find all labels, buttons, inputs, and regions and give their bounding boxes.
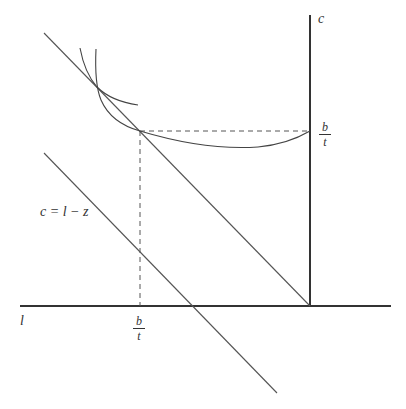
c-tick-numerator: b (318, 121, 332, 133)
l-axis-tick-label: b t (132, 315, 146, 342)
l-tick-denominator: t (132, 330, 146, 342)
indifference-curve-lower (96, 49, 310, 148)
upper-budget-line (44, 33, 310, 306)
budget-line-label: c = l − z (40, 205, 88, 219)
c-axis-label: c (318, 12, 324, 26)
indifference-curve-upper (80, 48, 138, 105)
c-tick-denominator: t (318, 136, 332, 148)
l-tick-numerator: b (132, 315, 146, 327)
c-axis-tick-label: b t (318, 121, 332, 148)
l-axis-label: l (20, 314, 24, 328)
lower-budget-line (44, 153, 277, 393)
